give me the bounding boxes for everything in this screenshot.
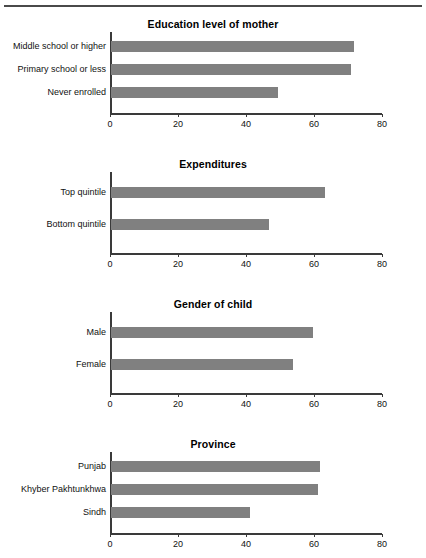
x-axis-tick-label: 20 <box>173 539 183 549</box>
chart-title: Gender of child <box>0 298 426 310</box>
plot-area: 020406080MaleFemale <box>0 312 426 422</box>
chart-panel: Education level of mother020406080Middle… <box>0 10 426 150</box>
bar <box>111 41 354 52</box>
x-axis-tick-label: 80 <box>377 259 387 269</box>
x-axis-tick <box>178 254 179 257</box>
bar <box>111 187 325 198</box>
x-axis-tick <box>110 254 111 257</box>
x-axis-tick <box>314 114 315 117</box>
x-axis-tick-label: 40 <box>241 119 251 129</box>
x-axis-tick <box>178 114 179 117</box>
bar-category-label: Female <box>0 359 106 370</box>
bar-category-label: Middle school or higher <box>0 41 106 52</box>
x-axis-tick-label: 80 <box>377 539 387 549</box>
figure-page: Education level of mother020406080Middle… <box>0 0 426 558</box>
bar <box>111 219 269 230</box>
bar-row: Bottom quintile <box>0 219 426 230</box>
bar-category-label: Never enrolled <box>0 87 106 98</box>
plot-area: 020406080Top quintileBottom quintile <box>0 172 426 282</box>
x-axis-tick <box>246 394 247 397</box>
x-axis-tick-label: 60 <box>309 399 319 409</box>
x-axis-tick <box>246 114 247 117</box>
x-axis-tick-label: 0 <box>107 539 112 549</box>
x-axis-tick <box>178 394 179 397</box>
x-axis-tick-label: 20 <box>173 259 183 269</box>
bar-row: Never enrolled <box>0 87 426 98</box>
x-axis-tick-label: 20 <box>173 399 183 409</box>
bar <box>111 507 250 518</box>
x-axis-tick <box>382 254 383 257</box>
bar <box>111 64 351 75</box>
chart-panel: Province020406080PunjabKhyber Pakhtunkhw… <box>0 430 426 558</box>
bar-category-label: Sindh <box>0 507 106 518</box>
x-axis-tick <box>382 114 383 117</box>
x-axis-tick-label: 40 <box>241 539 251 549</box>
x-axis-tick-label: 40 <box>241 259 251 269</box>
x-axis-tick <box>382 394 383 397</box>
x-axis-tick-label: 80 <box>377 399 387 409</box>
chart-title: Expenditures <box>0 158 426 170</box>
x-axis-tick <box>246 254 247 257</box>
bar <box>111 87 278 98</box>
x-axis-tick-label: 60 <box>309 119 319 129</box>
plot-area: 020406080PunjabKhyber PakhtunkhwaSindh <box>0 452 426 558</box>
x-axis-tick <box>314 254 315 257</box>
bar-category-label: Bottom quintile <box>0 219 106 230</box>
bar <box>111 327 313 338</box>
x-axis-tick-label: 20 <box>173 119 183 129</box>
x-axis-tick <box>382 534 383 537</box>
x-axis-tick-label: 60 <box>309 539 319 549</box>
bar-category-label: Khyber Pakhtunkhwa <box>0 484 106 495</box>
bar-category-label: Primary school or less <box>0 64 106 75</box>
bar <box>111 461 320 472</box>
bar-row: Primary school or less <box>0 64 426 75</box>
bar-row: Middle school or higher <box>0 41 426 52</box>
x-axis-tick <box>314 394 315 397</box>
bar <box>111 484 318 495</box>
chart-panel: Gender of child020406080MaleFemale <box>0 290 426 430</box>
x-axis-tick-label: 0 <box>107 399 112 409</box>
chart-title: Education level of mother <box>0 18 426 30</box>
y-axis-line <box>110 172 112 254</box>
bar-row: Male <box>0 327 426 338</box>
bar <box>111 359 293 370</box>
bar-row: Female <box>0 359 426 370</box>
bar-row: Sindh <box>0 507 426 518</box>
x-axis-tick <box>110 534 111 537</box>
y-axis-line <box>110 312 112 394</box>
x-axis-tick <box>178 534 179 537</box>
chart-panel-stack: Education level of mother020406080Middle… <box>0 10 426 558</box>
x-axis-tick-label: 0 <box>107 259 112 269</box>
x-axis-tick-label: 60 <box>309 259 319 269</box>
x-axis-tick-label: 80 <box>377 119 387 129</box>
bar-row: Khyber Pakhtunkhwa <box>0 484 426 495</box>
plot-area: 020406080Middle school or higherPrimary … <box>0 32 426 142</box>
chart-title: Province <box>0 438 426 450</box>
bar-row: Top quintile <box>0 187 426 198</box>
bar-row: Punjab <box>0 461 426 472</box>
x-axis-tick <box>110 114 111 117</box>
x-axis-tick <box>246 534 247 537</box>
bar-category-label: Male <box>0 327 106 338</box>
bar-category-label: Punjab <box>0 461 106 472</box>
top-divider-rule <box>4 5 422 7</box>
x-axis-tick-label: 40 <box>241 399 251 409</box>
x-axis-tick <box>314 534 315 537</box>
bar-category-label: Top quintile <box>0 187 106 198</box>
x-axis-tick <box>110 394 111 397</box>
chart-panel: Expenditures020406080Top quintileBottom … <box>0 150 426 290</box>
x-axis-tick-label: 0 <box>107 119 112 129</box>
